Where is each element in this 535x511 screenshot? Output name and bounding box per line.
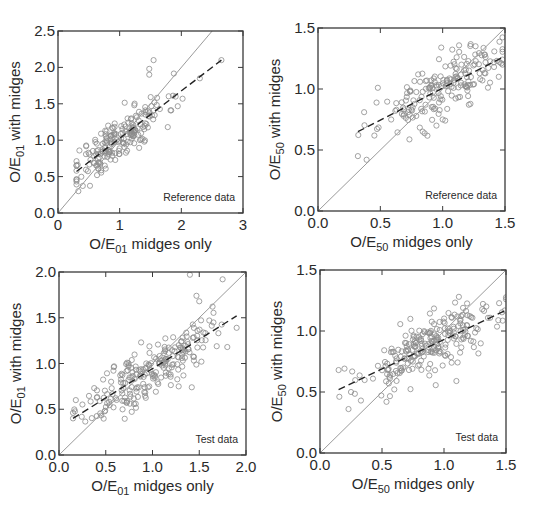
data-point (454, 378, 459, 383)
x-axis-label: O/E50 midges only (350, 233, 473, 253)
data-point (137, 145, 142, 150)
x-tick-label: 1.5 (189, 458, 210, 475)
data-point (449, 360, 454, 365)
data-point (79, 174, 84, 179)
data-point (458, 350, 463, 355)
x-tick-label: 1.0 (142, 458, 163, 475)
data-point (336, 367, 341, 372)
x-tick-label: 1.0 (434, 456, 455, 473)
one-to-one-line (58, 0, 243, 213)
data-point (80, 402, 85, 407)
panel-oe01-test: 0.00.51.01.52.00.00.51.01.52.0Test dataO… (7, 263, 256, 497)
data-point (346, 406, 351, 411)
data-point (434, 123, 439, 128)
data-point (83, 419, 88, 424)
data-point (180, 364, 185, 369)
data-point (437, 319, 442, 324)
data-point (485, 85, 490, 90)
data-point (428, 361, 433, 366)
data-point (148, 94, 153, 99)
data-point (460, 305, 465, 310)
data-point (358, 398, 363, 403)
y-tick-label: 0.0 (34, 204, 55, 221)
data-point (395, 130, 400, 135)
data-point (384, 399, 389, 404)
data-point (436, 100, 441, 105)
data-point (180, 96, 185, 101)
data-point (155, 342, 160, 347)
data-point (445, 106, 450, 111)
data-point (132, 352, 137, 357)
dataset-annotation: Reference data (425, 189, 497, 201)
data-point (376, 125, 381, 130)
x-tick-label: 1.0 (432, 214, 453, 231)
data-point (88, 399, 93, 404)
y-tick-label: 1.5 (34, 95, 55, 112)
data-point (484, 304, 489, 309)
data-point (129, 357, 134, 362)
data-point (432, 368, 437, 373)
panel-oe50-test: 0.00.51.01.50.00.51.01.5Test dataO/E50 m… (268, 261, 516, 495)
data-point (362, 123, 367, 128)
data-point (141, 381, 146, 386)
data-point (468, 101, 473, 106)
data-point (194, 362, 199, 367)
data-point (101, 377, 106, 382)
data-point (436, 57, 441, 62)
data-point (165, 124, 170, 129)
data-point (439, 45, 444, 50)
y-tick-label: 1.5 (35, 309, 56, 326)
data-point (79, 414, 84, 419)
data-point (104, 371, 109, 376)
data-point (194, 293, 199, 298)
plot-area (59, 272, 246, 455)
panel-oe01-reference: 01230.00.51.01.52.02.5Reference dataO/E0… (6, 0, 247, 255)
data-point (214, 344, 219, 349)
data-point (433, 383, 438, 388)
y-tick-label: 0.5 (294, 141, 315, 158)
data-point (374, 126, 379, 131)
data-point (455, 360, 460, 365)
data-point (476, 351, 481, 356)
data-point (427, 373, 432, 378)
plot-area (320, 270, 509, 453)
data-point (337, 394, 342, 399)
data-point (175, 377, 180, 382)
data-point (478, 341, 483, 346)
y-tick-label: 1.0 (296, 322, 317, 339)
y-tick-label: 0.0 (294, 202, 315, 219)
data-point (430, 117, 435, 122)
dataset-annotation: Test data (455, 431, 498, 443)
data-point (120, 407, 125, 412)
x-axis-label: O/E01 midges only (89, 235, 212, 255)
y-tick-label: 0.5 (34, 168, 55, 185)
data-point (199, 359, 204, 364)
data-point (443, 64, 448, 69)
data-point (216, 331, 221, 336)
scatter-points (74, 58, 224, 194)
x-tick-label: 0 (54, 216, 62, 233)
x-axis-label: O/E01 midges only (91, 477, 214, 497)
data-point (225, 344, 230, 349)
data-point (450, 47, 455, 52)
data-point (168, 382, 173, 387)
data-point (411, 98, 416, 103)
data-point (87, 183, 92, 188)
data-point (449, 93, 454, 98)
data-point (456, 43, 461, 48)
one-to-one-line (318, 28, 505, 211)
y-tick-label: 1.5 (296, 261, 317, 278)
data-point (375, 363, 380, 368)
data-point (389, 117, 394, 122)
data-point (379, 393, 384, 398)
data-point (139, 340, 144, 345)
data-point (487, 80, 492, 85)
data-point (356, 132, 361, 137)
data-point (404, 85, 409, 90)
data-point (374, 100, 379, 105)
data-point (197, 299, 202, 304)
data-point (462, 54, 467, 59)
data-point (434, 326, 439, 331)
data-point (464, 301, 469, 306)
data-point (427, 311, 432, 316)
